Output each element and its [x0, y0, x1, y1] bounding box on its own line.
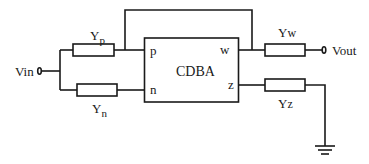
yp-admittance [73, 44, 114, 56]
ground-icon [315, 146, 335, 154]
port-z-label: z [228, 77, 234, 92]
circuit-diagram: Vin Yp Yn CDBA p n w z Yw Vout Yz [0, 0, 369, 164]
yw-label: Yw [278, 25, 296, 40]
vout-terminal [322, 47, 326, 53]
yz-admittance [265, 79, 305, 91]
yz-label: Yz [278, 96, 293, 111]
cdba-label: CDBA [176, 64, 216, 79]
port-p-label: p [150, 43, 157, 58]
vin-label: Vin [15, 64, 34, 79]
input-branch [38, 50, 77, 90]
port-n-label: n [150, 82, 157, 97]
vin-terminal [38, 68, 42, 74]
yn-label: Yn [92, 101, 107, 119]
port-w-label: w [220, 42, 230, 57]
vout-label: Vout [332, 43, 357, 58]
yn-admittance [77, 84, 117, 96]
yw-admittance [265, 44, 305, 56]
